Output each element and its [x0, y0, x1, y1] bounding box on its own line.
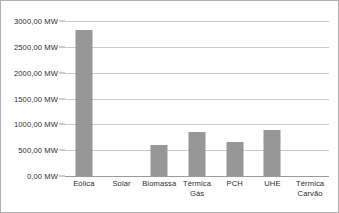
- y-tick-label: 1000,00 MW: [14, 120, 58, 129]
- bar-slot: [216, 21, 254, 176]
- x-tick-label-line: Térmica: [291, 179, 329, 189]
- bar-slot: [178, 21, 216, 176]
- x-tick-label: TérmicaCarvão: [291, 179, 329, 199]
- bar-slot: [140, 21, 178, 176]
- bar-slot: [103, 21, 141, 176]
- x-tick-label-line: Carvão: [291, 189, 329, 199]
- x-tick-label: Solar: [103, 179, 141, 189]
- x-tick-label-line: Solar: [103, 179, 141, 189]
- x-axis: EólicaSolarBiomassaTérmicaGásPCHUHETérmi…: [65, 179, 329, 213]
- axis-baseline: [65, 176, 329, 177]
- x-tick-label: Biomassa: [140, 179, 178, 189]
- bar-chart: 0,00 MW500,00 MW1000,00 MW1500,00 MW2000…: [0, 0, 339, 213]
- x-tick-label: TérmicaGás: [178, 179, 216, 199]
- bar: [75, 30, 92, 176]
- y-tick-label: 3000,00 MW: [14, 17, 58, 26]
- y-tick-label: 500,00 MW: [18, 146, 58, 155]
- x-tick-label: UHE: [254, 179, 292, 189]
- bars: [65, 21, 329, 176]
- y-axis: 0,00 MW500,00 MW1000,00 MW1500,00 MW2000…: [1, 21, 65, 176]
- x-tick-label-line: UHE: [254, 179, 292, 189]
- x-tick-label-line: PCH: [216, 179, 254, 189]
- plot-area: [65, 21, 329, 176]
- y-tick-label: 2500,00 MW: [14, 42, 58, 51]
- bar: [188, 132, 205, 176]
- y-tick-label: 0,00 MW: [27, 172, 58, 181]
- x-tick-label: PCH: [216, 179, 254, 189]
- x-tick-label-line: Gás: [178, 189, 216, 199]
- x-tick-label-line: Biomassa: [140, 179, 178, 189]
- y-tick-label: 2000,00 MW: [14, 68, 58, 77]
- x-tick-label-line: Térmica: [178, 179, 216, 189]
- bar-slot: [65, 21, 103, 176]
- bar-slot: [291, 21, 329, 176]
- bar: [264, 130, 281, 177]
- bar: [151, 145, 168, 176]
- y-tick-label: 1500,00 MW: [14, 94, 58, 103]
- x-tick-label: Eólica: [65, 179, 103, 189]
- x-tick-label-line: Eólica: [65, 179, 103, 189]
- bar: [226, 142, 243, 176]
- bar-slot: [254, 21, 292, 176]
